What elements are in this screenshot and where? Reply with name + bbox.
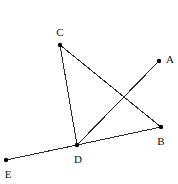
segment-DA xyxy=(77,61,159,145)
point-label-B: B xyxy=(157,136,164,147)
geometry-figure: ABCDE xyxy=(0,0,178,184)
point-label-E: E xyxy=(5,169,12,180)
point-C xyxy=(58,43,62,47)
point-label-D: D xyxy=(74,154,82,165)
geometry-canvas xyxy=(0,0,178,184)
point-label-C: C xyxy=(56,27,63,38)
point-A xyxy=(157,59,161,63)
point-E xyxy=(4,158,8,162)
segment-ED xyxy=(6,145,77,160)
segment-CD xyxy=(60,45,77,145)
segment-CB xyxy=(60,45,161,127)
point-B xyxy=(159,125,163,129)
point-D xyxy=(75,143,79,147)
point-label-A: A xyxy=(166,54,174,65)
segment-DB xyxy=(77,127,161,145)
points-group xyxy=(4,43,163,162)
segments-group xyxy=(6,45,161,160)
